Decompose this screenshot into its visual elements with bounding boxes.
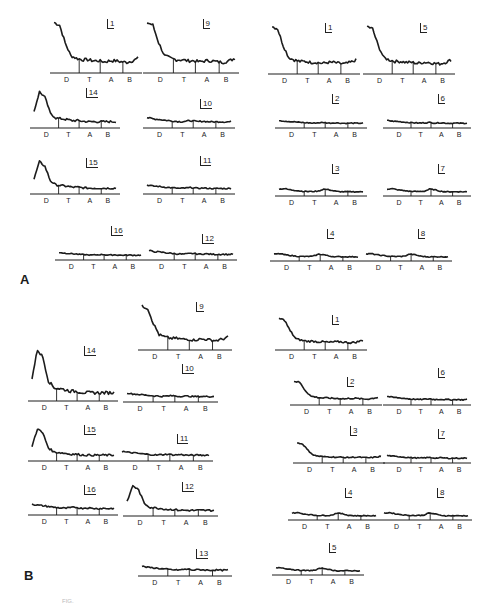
spectrum-svg bbox=[275, 108, 367, 130]
spectrum-svg bbox=[28, 345, 118, 403]
spectrum-svg bbox=[383, 382, 471, 407]
band-label-a: A bbox=[334, 131, 339, 138]
spectrum-svg bbox=[293, 440, 385, 465]
band-label-t: T bbox=[182, 263, 186, 270]
spectrum-plot-a-15: DTAB15 bbox=[30, 158, 120, 208]
band-label-d: D bbox=[396, 199, 401, 206]
spectrum-plot-a-1: DTAB1 bbox=[268, 22, 360, 88]
channel-number: 2 bbox=[347, 377, 354, 387]
band-label-d: D bbox=[157, 131, 162, 138]
spectrum-svg bbox=[380, 502, 472, 522]
spectrum-trace bbox=[147, 23, 235, 64]
band-label-d: D bbox=[289, 199, 294, 206]
band-label-d: D bbox=[394, 523, 399, 530]
band-label-t: T bbox=[312, 199, 316, 206]
spectrum-trace bbox=[387, 189, 467, 193]
spectrum-svg bbox=[145, 235, 237, 262]
spectrum-trace bbox=[54, 23, 138, 64]
band-label-a: A bbox=[347, 523, 352, 530]
band-label-a: A bbox=[184, 405, 189, 412]
band-label-a: A bbox=[85, 404, 90, 411]
spectrum-plot-b-13: DTAB13 bbox=[138, 550, 232, 590]
spectrum-trace bbox=[387, 397, 467, 401]
spectrum-plot-a-5: DTAB5 bbox=[363, 22, 455, 88]
band-label-b: B bbox=[457, 199, 462, 206]
band-label-a: A bbox=[85, 464, 90, 471]
band-label-a: A bbox=[349, 408, 354, 415]
spectrum-plot-b-3: DTAB3 bbox=[293, 440, 385, 477]
band-label-t: T bbox=[64, 518, 68, 525]
band-label-b: B bbox=[457, 131, 462, 138]
spectrum-trace bbox=[274, 254, 358, 258]
band-label-d: D bbox=[64, 76, 69, 83]
band-label-b: B bbox=[349, 578, 354, 585]
spectrum-trace bbox=[276, 568, 360, 572]
band-label-a: A bbox=[439, 523, 444, 530]
channel-number: 13 bbox=[196, 549, 208, 559]
band-label-a: A bbox=[112, 263, 117, 270]
channel-number: 3 bbox=[332, 164, 339, 174]
channel-number: 4 bbox=[345, 488, 352, 498]
spectrum-svg bbox=[138, 550, 232, 578]
spectrum-trace bbox=[147, 185, 231, 189]
band-label-d: D bbox=[396, 131, 401, 138]
band-label-d: D bbox=[284, 264, 289, 271]
spectrum-trace bbox=[127, 393, 214, 397]
band-label-a: A bbox=[202, 197, 207, 204]
spectrum-plot-b-5: DTAB5 bbox=[272, 557, 364, 589]
band-label-b: B bbox=[217, 353, 222, 360]
spectrum-plot-a-4: DTAB4 bbox=[270, 243, 362, 275]
spectrum-trace bbox=[297, 443, 381, 458]
channel-number: 16 bbox=[111, 226, 123, 236]
spectrum-trace bbox=[59, 253, 141, 256]
spectrum-svg bbox=[143, 100, 235, 130]
band-label-t: T bbox=[161, 519, 165, 526]
spectrum-svg bbox=[272, 557, 364, 577]
band-label-a: A bbox=[204, 76, 209, 83]
spectrum-svg bbox=[138, 302, 232, 352]
channel-number: 12 bbox=[182, 482, 194, 492]
figure-caption: FIG. bbox=[62, 598, 74, 604]
spectrum-svg bbox=[50, 18, 142, 75]
band-label-t: T bbox=[161, 405, 165, 412]
band-label-b: B bbox=[352, 199, 357, 206]
spectrum-svg bbox=[118, 435, 213, 463]
band-label-d: D bbox=[157, 197, 162, 204]
band-label-b: B bbox=[345, 77, 350, 84]
band-label-b: B bbox=[198, 464, 203, 471]
spectrum-svg bbox=[288, 502, 380, 522]
band-label-t: T bbox=[156, 464, 160, 471]
band-label-a: A bbox=[419, 264, 424, 271]
band-label-b: B bbox=[105, 197, 110, 204]
spectrum-svg bbox=[275, 178, 367, 198]
band-label-b: B bbox=[352, 131, 357, 138]
panel-label-b: B bbox=[24, 568, 33, 583]
band-label-d: D bbox=[133, 464, 138, 471]
spectrum-plot-b-6: DTAB6 bbox=[383, 382, 471, 419]
spectrum-plot-a-11: DTAB11 bbox=[143, 170, 235, 208]
band-label-d: D bbox=[158, 76, 163, 83]
spectrum-trace bbox=[279, 121, 363, 124]
spectrum-svg bbox=[290, 378, 382, 407]
channel-number: 9 bbox=[196, 302, 203, 312]
band-label-d: D bbox=[42, 518, 47, 525]
band-label-d: D bbox=[304, 408, 309, 415]
band-label-t: T bbox=[417, 523, 421, 530]
band-label-a: A bbox=[198, 579, 203, 586]
spectrum-trace bbox=[142, 305, 228, 342]
band-label-t: T bbox=[418, 408, 422, 415]
band-label-t: T bbox=[182, 76, 186, 83]
spectrum-trace bbox=[292, 512, 376, 516]
spectrum-plot-b-10: DTAB10 bbox=[123, 378, 218, 416]
spectrum-trace bbox=[367, 26, 451, 65]
band-label-b: B bbox=[367, 408, 372, 415]
spectrum-trace bbox=[387, 455, 467, 459]
band-label-d: D bbox=[396, 466, 401, 473]
band-label-b: B bbox=[440, 77, 445, 84]
band-label-t: T bbox=[180, 131, 184, 138]
spectrum-svg bbox=[383, 443, 471, 465]
band-label-t: T bbox=[66, 131, 70, 138]
spectrum-svg bbox=[383, 178, 471, 198]
band-label-b: B bbox=[370, 466, 375, 473]
spectrum-trace bbox=[34, 161, 116, 189]
